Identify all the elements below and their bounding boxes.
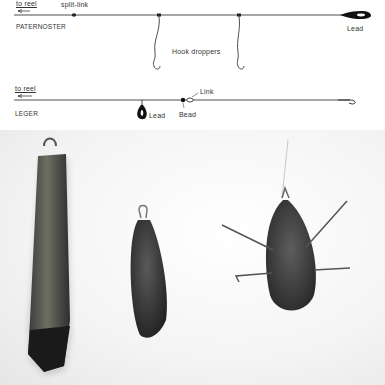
leger-title: LEGER [15,110,38,117]
paternoster-reel-arrow-icon [18,10,30,13]
grip-wire-2 [306,201,347,247]
bead-icon [181,98,185,102]
pear-lead [139,206,147,219]
split-link-label: split-link [61,1,88,8]
grip-wire-3 [236,273,272,282]
leger-to-reel-label: to reel [15,85,36,92]
paternoster-lead-icon [340,11,371,19]
split-link-icon [72,13,76,17]
paternoster-to-reel-label: to reel [16,0,37,7]
leads-photograph [0,130,385,385]
hook-droppers-label: Hook droppers [172,48,221,55]
leger-lead-label: Lead [149,112,165,119]
long-bar-lead [44,139,56,147]
paternoster-title: PATERNOSTER [16,23,66,30]
leger-hook-icon [338,100,355,104]
hook-dropper-1 [153,16,160,69]
grip-wire-4 [314,268,350,270]
grip-wire-1 [222,225,273,250]
leger-reel-arrow-icon [18,95,32,98]
link-label: Link [200,88,214,95]
hook-dropper-2 [237,16,244,69]
paternoster-lead-label: Lead [347,25,363,32]
link-icon [187,98,193,102]
bead-label: Bead [179,111,196,118]
